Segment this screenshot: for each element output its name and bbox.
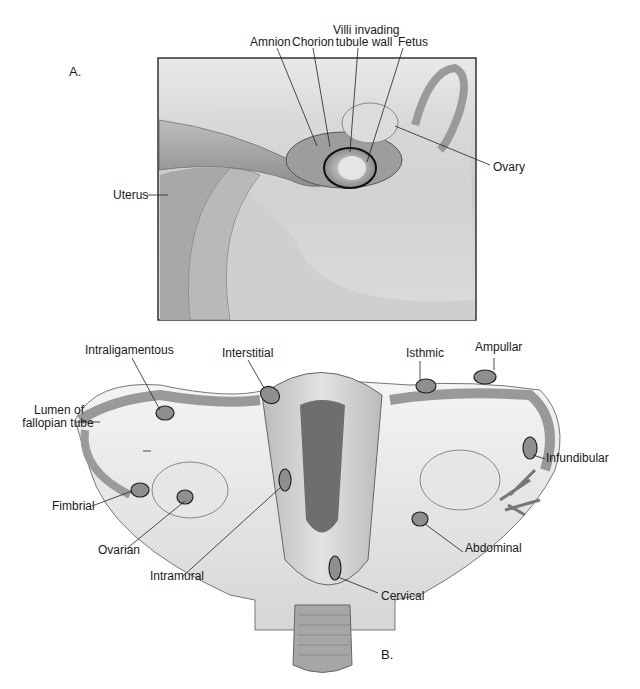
label-fimbrial: Fimbrial xyxy=(52,500,95,513)
panel-b-letter: B. xyxy=(381,647,393,662)
label-ampullar: Ampullar xyxy=(475,341,522,354)
label-isthmic: Isthmic xyxy=(406,347,444,360)
label-lumen-line2: fallopian tube xyxy=(18,417,98,430)
label-ovarian: Ovarian xyxy=(98,544,140,557)
panel-b-image xyxy=(75,370,560,673)
panel-a-image xyxy=(158,58,476,320)
label-fetus: Fetus xyxy=(398,36,428,49)
panel-a-letter: A. xyxy=(69,64,81,79)
label-amnion: Amnion xyxy=(250,36,291,49)
label-intramural: Intramural xyxy=(150,570,204,583)
label-villi-line2: tubule wall xyxy=(333,36,395,49)
label-cervical: Cervical xyxy=(381,590,424,603)
label-chorion: Chorion xyxy=(292,36,334,49)
label-uterus: Uterus xyxy=(113,189,148,202)
label-ovary: Ovary xyxy=(493,161,525,174)
label-intraligamentous: Intraligamentous xyxy=(85,344,174,357)
label-infundibular: Infundibular xyxy=(546,452,609,465)
label-interstitial: Interstitial xyxy=(222,347,273,360)
label-abdominal: Abdominal xyxy=(465,542,522,555)
